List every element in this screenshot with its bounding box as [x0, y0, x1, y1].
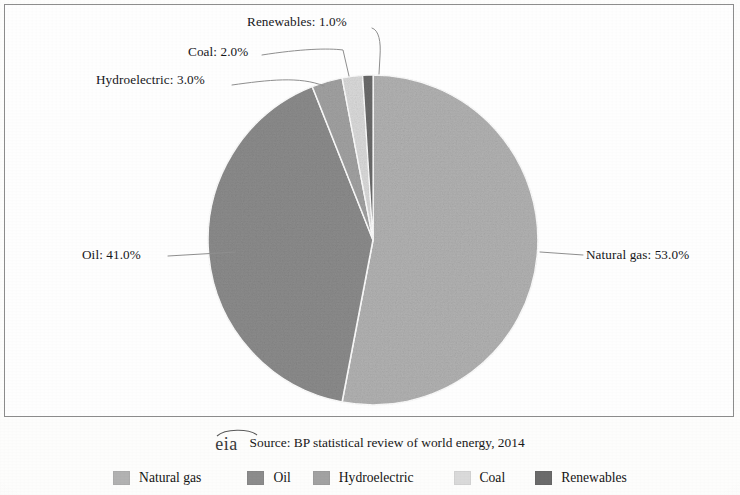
legend-item-renewables[interactable]: Renewables: [535, 470, 627, 486]
legend-item-oil[interactable]: Oil: [247, 470, 290, 486]
pie-chart: Renewables: 1.0% Coal: 2.0% Hydroelectri…: [0, 0, 740, 418]
legend-item-natural-gas[interactable]: Natural gas: [113, 470, 201, 486]
callout-label-oil: Oil: 41.0%: [82, 247, 141, 263]
pie-chart-svg: [0, 0, 740, 418]
leader-line-coal: [262, 49, 349, 76]
legend-label: Hydroelectric: [339, 470, 414, 486]
chart-legend: Natural gasOilHydroelectricCoalRenewable…: [0, 470, 740, 486]
eia-logo: eia: [215, 430, 237, 455]
eia-logo-arc-icon: [216, 428, 258, 437]
source-text: Source: BP statistical review of world e…: [250, 435, 525, 451]
leader-line-hydroelectric: [232, 80, 324, 86]
callout-label-natural-gas: Natural gas: 53.0%: [586, 247, 689, 263]
leader-line-natural-gas: [540, 252, 583, 255]
pie-slices: [208, 75, 538, 405]
legend-label: Oil: [273, 470, 290, 486]
eia-logo-text: eia: [215, 434, 237, 454]
legend-item-hydroelectric[interactable]: Hydroelectric: [313, 470, 414, 486]
legend-label: Natural gas: [139, 470, 201, 486]
callout-label-hydroelectric: Hydroelectric: 3.0%: [96, 72, 205, 88]
legend-swatch-icon: [535, 471, 552, 485]
legend-swatch-icon: [113, 471, 130, 485]
legend-swatch-icon: [454, 471, 471, 485]
callout-label-renewables: Renewables: 1.0%: [247, 14, 347, 30]
legend-swatch-icon: [313, 471, 330, 485]
legend-label: Coal: [480, 470, 506, 486]
legend-item-coal[interactable]: Coal: [454, 470, 506, 486]
source-row: eia Source: BP statistical review of wor…: [0, 430, 740, 455]
leader-line-renewables: [372, 28, 380, 74]
legend-swatch-icon: [247, 471, 264, 485]
legend-label: Renewables: [561, 470, 627, 486]
callout-label-coal: Coal: 2.0%: [188, 44, 248, 60]
